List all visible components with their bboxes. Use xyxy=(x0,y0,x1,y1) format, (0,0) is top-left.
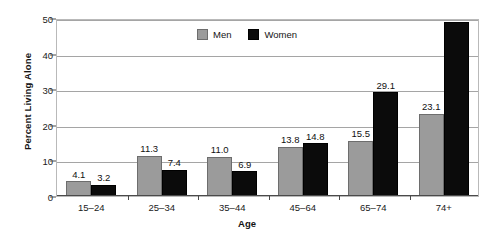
bar-value-label: 29.1 xyxy=(377,81,396,91)
bar-women xyxy=(232,171,257,196)
bar-chart: Percent Living Alone 01020304050 4.13.21… xyxy=(0,0,494,245)
x-axis-baseline xyxy=(57,195,478,196)
x-axis-tick: 45–64 xyxy=(290,202,316,213)
bar-value-label: 6.9 xyxy=(238,160,251,170)
x-axis-tick: 74+ xyxy=(436,202,452,213)
x-axis-title: Age xyxy=(0,218,494,229)
x-axis-tick-mark xyxy=(198,196,199,200)
bar-value-label: 11.0 xyxy=(211,145,229,155)
y-axis-tick: 30 xyxy=(11,85,53,96)
plot-area: 4.13.211.37.411.06.913.814.815.529.123.1 xyxy=(56,19,479,197)
bar-women xyxy=(162,170,187,196)
bar-men xyxy=(348,141,373,196)
y-axis-tick: 40 xyxy=(11,49,53,60)
bar-men xyxy=(137,156,162,196)
bar-group: 11.37.4 xyxy=(137,20,187,196)
bar-value-label: 3.2 xyxy=(97,173,110,183)
y-axis-tick: 50 xyxy=(11,14,53,25)
x-axis-tick-mark xyxy=(339,196,340,200)
gridline xyxy=(57,20,478,21)
bar-group: 15.529.1 xyxy=(348,20,398,196)
y-axis-tick: 0 xyxy=(11,192,53,203)
x-axis-tick-mark xyxy=(269,196,270,200)
x-axis-tick: 65–74 xyxy=(360,202,386,213)
y-axis-tick: 10 xyxy=(11,156,53,167)
gridline xyxy=(57,91,478,92)
bar-group: 11.06.9 xyxy=(207,20,257,196)
bar-value-label: 7.4 xyxy=(168,158,181,168)
bar-women xyxy=(444,22,469,196)
gridline xyxy=(57,127,478,128)
bar-value-label: 13.8 xyxy=(281,135,300,145)
x-axis-tick: 15–24 xyxy=(78,202,104,213)
y-axis-tick: 20 xyxy=(11,120,53,131)
x-axis-tick-mark xyxy=(128,196,129,200)
bar-group: 13.814.8 xyxy=(278,20,328,196)
bar-men xyxy=(419,114,444,196)
bar-value-label: 23.1 xyxy=(422,102,441,112)
bar-value-label: 4.1 xyxy=(72,170,85,180)
bar-group: 23.1 xyxy=(419,20,469,196)
x-axis-tick: 25–34 xyxy=(149,202,175,213)
bar-women xyxy=(303,143,328,196)
bar-value-label: 15.5 xyxy=(352,129,371,139)
gridline xyxy=(57,56,478,57)
bar-men xyxy=(278,147,303,196)
bar-women xyxy=(373,92,398,196)
x-axis-tick-mark xyxy=(410,196,411,200)
bar-men xyxy=(66,181,91,196)
bar-value-label: 11.3 xyxy=(140,144,158,154)
x-axis-tick: 35–44 xyxy=(219,202,245,213)
gridline xyxy=(57,162,478,163)
bar-men xyxy=(207,157,232,196)
bar-group: 4.13.2 xyxy=(66,20,116,196)
bar-value-label: 14.8 xyxy=(306,132,325,142)
